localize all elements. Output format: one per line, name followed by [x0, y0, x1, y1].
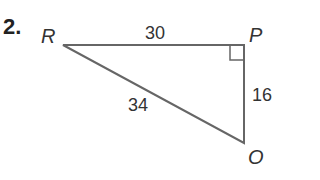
vertex-label-r: R: [41, 25, 55, 48]
right-angle-marker: [230, 45, 244, 60]
side-label-ro: 34: [128, 95, 148, 116]
side-label-rp: 30: [145, 23, 165, 44]
vertex-label-o: O: [248, 146, 264, 169]
vertex-label-p: P: [249, 24, 262, 47]
triangle-shape: [63, 45, 244, 143]
side-label-po: 16: [252, 85, 272, 106]
